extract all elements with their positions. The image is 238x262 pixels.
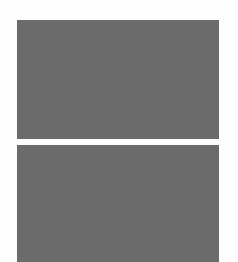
image-placeholder-bottom [17, 145, 219, 262]
image-placeholder-top [17, 20, 219, 139]
